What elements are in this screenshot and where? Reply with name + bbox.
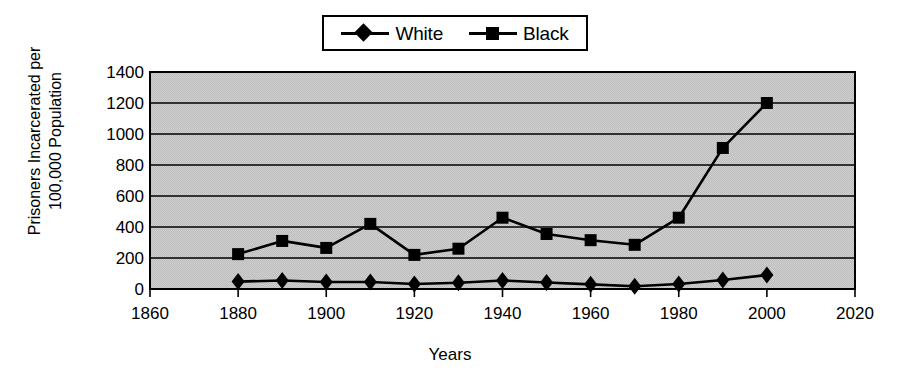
data-point-square [761, 97, 773, 109]
data-point-square [629, 239, 641, 251]
data-point-square [232, 248, 244, 260]
plot-background [150, 72, 855, 289]
data-point-square [408, 249, 420, 261]
x-tick-marks [150, 289, 855, 297]
data-point-square [276, 235, 288, 247]
data-point-square [320, 242, 332, 254]
plot-area [0, 0, 900, 380]
data-point-square [497, 212, 509, 224]
data-point-square [541, 228, 553, 240]
data-point-square [585, 234, 597, 246]
data-point-square [717, 142, 729, 154]
data-point-square [673, 212, 685, 224]
data-point-square [364, 218, 376, 230]
chart-figure: White Black Prisoners Incarcerated per 1… [0, 0, 900, 380]
data-point-square [452, 243, 464, 255]
